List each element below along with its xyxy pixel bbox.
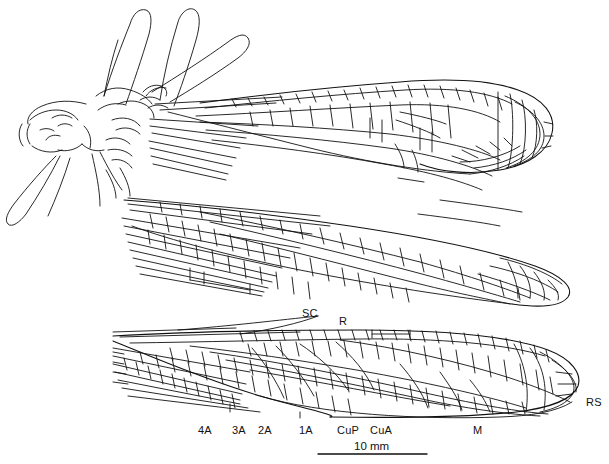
wing-venation-drawing (0, 0, 609, 464)
vein-label-1a: 1A (299, 424, 313, 436)
hindwing-middle (122, 178, 570, 306)
vein-label-rs: RS (586, 396, 602, 408)
vein-label-r: R (339, 315, 347, 327)
vein-label-4a: 4A (198, 424, 212, 436)
scale-bar-caption: 10 mm (354, 440, 389, 452)
vein-label-m: M (473, 424, 482, 436)
vein-label-3a: 3A (232, 424, 246, 436)
forewing-upper (149, 80, 553, 190)
figure-plate: SC R RS M CuA CuP 1A 2A 3A 4A 10 mm (0, 0, 609, 464)
vein-label-cup: CuP (337, 424, 359, 436)
vein-label-2a: 2A (258, 424, 272, 436)
wing-detail-lower (113, 316, 579, 418)
vein-label-cua: CuA (370, 424, 392, 436)
vein-label-sc: SC (302, 307, 318, 319)
body-outline (6, 9, 249, 226)
